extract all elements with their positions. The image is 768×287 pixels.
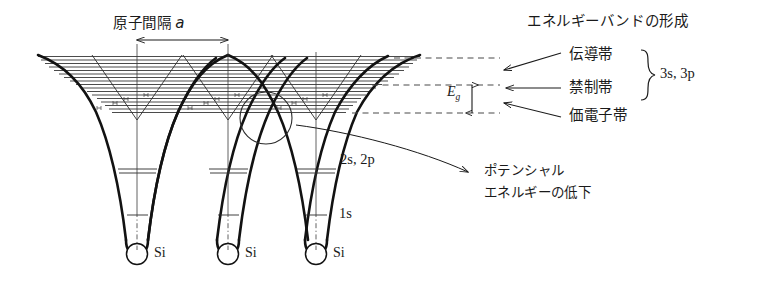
potential-lowering-note-line1: ポテンシャル (484, 164, 564, 178)
diagram-canvas (0, 0, 768, 287)
outer-shell-group-label: 3s, 3p (660, 66, 695, 81)
atomic-spacing-label: 原子間隔a (113, 16, 185, 31)
forbidden-band-label: 禁制帯 (569, 80, 613, 95)
atom-label-si-1: Si (154, 246, 166, 260)
atom-label-si-3: Si (333, 246, 345, 260)
band-edge-dashed-lines (352, 58, 500, 113)
atom-label-si-2: Si (245, 246, 257, 260)
potential-well-curves (38, 55, 388, 240)
shell-group-brace (641, 50, 655, 100)
atomic-spacing-symbol: a (175, 14, 185, 32)
band-callout-arrows (504, 53, 561, 117)
energy-band-diagram: 原子間隔a エネルギーバンドの形成 伝導帯 禁制帯 価電子帯 Eg 3s, 3p… (0, 0, 768, 287)
inner-well-walls (92, 55, 361, 120)
valence-band-label: 価電子帯 (569, 108, 627, 123)
l-shell-label: 2s, 2p (340, 152, 375, 167)
figure-title: エネルギーバンドの形成 (527, 14, 688, 29)
conduction-callout-arrow (504, 53, 561, 70)
energy-gap-subscript: g (456, 92, 461, 102)
atomic-spacing-text: 原子間隔 (113, 15, 171, 31)
energy-gap-label: Eg (447, 85, 460, 102)
level-tick-marks (97, 93, 327, 110)
k-shell-label: 1s (339, 206, 352, 221)
valence-callout-arrow (504, 103, 561, 117)
potential-lowering-note-line2: エネルギーの低下 (484, 186, 591, 200)
conduction-band-label: 伝導帯 (569, 47, 613, 62)
energy-gap-symbol: E (447, 84, 456, 99)
